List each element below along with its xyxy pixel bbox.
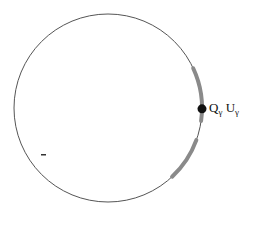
upper-highlight-arc bbox=[193, 68, 202, 121]
label-q: Qγ bbox=[209, 100, 222, 115]
lower-highlight-arc bbox=[172, 140, 196, 177]
point-marker bbox=[197, 104, 206, 113]
point-label: Qγ Uγ bbox=[209, 100, 239, 117]
label-u: Uγ bbox=[226, 100, 239, 115]
small-tick-mark bbox=[41, 154, 46, 156]
